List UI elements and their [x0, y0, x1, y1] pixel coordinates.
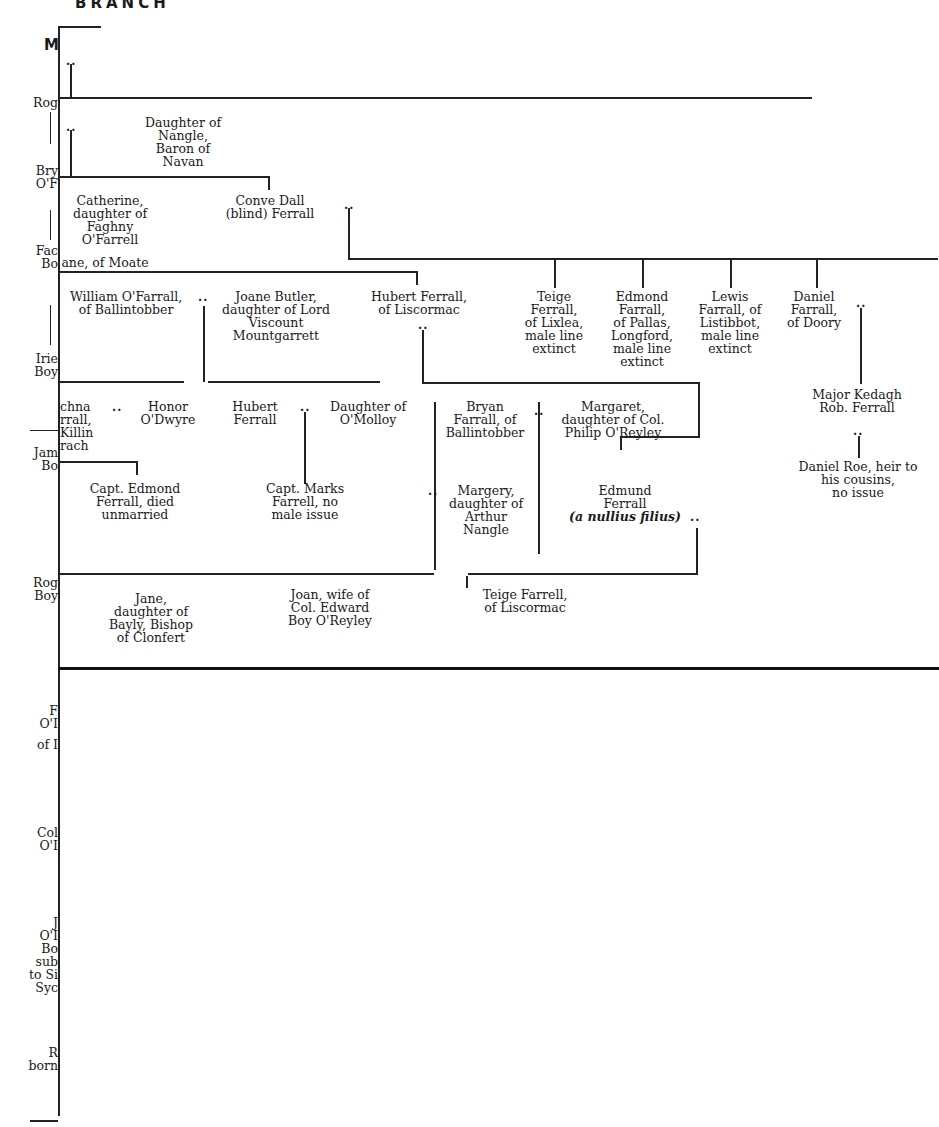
person-william-ofarrall: William O'Farrall,of Ballintobber — [56, 290, 196, 316]
generation-line — [58, 381, 184, 383]
person-honor-odwyre: HonorO'Dwyre — [128, 400, 208, 426]
margin-f: FO'Iof I — [37, 704, 58, 751]
descent-line — [642, 258, 644, 288]
generation-line — [58, 461, 138, 463]
person-daughter-of-omolloy: Daughter ofO'Molloy — [318, 400, 418, 426]
person-daniel-farrall-doory: DanielFarrall,of Doory — [774, 290, 854, 329]
person-capt-edmond: Capt. EdmondFerrall, diedunmarried — [80, 482, 190, 521]
person-joane-butler: Joane Butler,daughter of LordViscountMou… — [206, 290, 346, 342]
person-edmond-farrall-pallas: EdmondFarrall,of Pallas,Longford,male li… — [596, 290, 688, 368]
generation-line — [58, 176, 270, 178]
descent-line — [538, 402, 540, 554]
bottom-stub-line — [30, 1120, 58, 1122]
generation-line — [468, 573, 698, 575]
descent-line — [554, 258, 556, 288]
margin-jam: JamBo — [34, 446, 58, 472]
margin-rog-1: Rog — [33, 96, 58, 109]
person-teige-farrell-liscormac: Teige Farrell,of Liscormac — [470, 588, 580, 614]
descent-line — [70, 64, 72, 97]
margin-irie: IrieBoy — [34, 352, 58, 378]
descent-line — [348, 208, 350, 258]
margin-r: Rborn — [28, 1046, 58, 1072]
person-daughter-of-nangle: Daughter ofNangle,Baron ofNavan — [138, 116, 228, 168]
top-tick-line — [58, 26, 101, 28]
descent-line — [730, 258, 732, 288]
person-major-kedagh: Major KedaghRob. Ferrall — [802, 388, 912, 414]
person-hubert-ferrall-liscormac: Hubert Ferrall,of Liscormac — [358, 290, 480, 316]
descent-line — [698, 382, 700, 436]
descent-line — [136, 461, 138, 475]
descent-line — [203, 306, 205, 382]
person-bryan-farrall: BryanFarrall, ofBallintobber — [436, 400, 534, 439]
descent-line — [858, 436, 860, 458]
spine-line — [58, 26, 60, 1116]
generation-line — [208, 381, 380, 383]
descent-line — [860, 308, 862, 384]
descent-line — [696, 528, 698, 574]
margin-rog-2: RogBoy — [33, 576, 58, 602]
generation-line — [422, 382, 700, 384]
margin-stub — [50, 112, 51, 144]
margin-stub — [50, 305, 51, 345]
margin-j: JO'IBosubto SiSyc — [29, 916, 58, 994]
descent-line — [70, 130, 72, 176]
generation-line — [620, 436, 700, 438]
descent-line — [620, 436, 622, 450]
margin-stub — [50, 210, 51, 240]
descent-line — [268, 176, 270, 190]
person-catherine-tail: ane, of Moate — [40, 256, 170, 269]
person-edmund-ferrall: EdmundFerrall(a nullius filius) — [560, 484, 690, 523]
person-catherine: Catherine,daughter ofFaghnyO'Farrell — [60, 194, 160, 246]
person-teige-ferrall-lixlea: TeigeFerrall,of Lixlea,male lineextinct — [512, 290, 596, 355]
generation-line — [58, 97, 812, 99]
generation-line — [58, 573, 434, 575]
descent-line — [304, 412, 306, 484]
person-conve-dall: Conve Dall(blind) Ferrall — [210, 194, 330, 220]
descent-line — [816, 258, 818, 288]
person-cahna-fragment: chnarrall,Killinrach — [60, 400, 96, 452]
descent-line — [422, 330, 424, 382]
section-separator — [58, 667, 939, 670]
person-joan: Joan, wife ofCol. EdwardBoy O'Reyley — [270, 588, 390, 627]
descent-line — [416, 271, 418, 285]
generation-line — [58, 271, 418, 273]
person-capt-marks: Capt. MarksFarrell, nomale issue — [250, 482, 360, 521]
marriage-marker: .. — [690, 510, 700, 524]
branch-heading: BRANCH — [75, 0, 170, 12]
person-daniel-roe: Daniel Roe, heir tohis cousins,no issue — [776, 460, 939, 499]
marriage-marker: .. — [853, 424, 863, 438]
person-margery: Margery,daughter ofArthurNangle — [436, 484, 536, 536]
person-jane: Jane,daughter ofBayly, Bishopof Clonfert — [96, 592, 206, 644]
nullius-filius-note: (a nullius filius) — [560, 510, 690, 523]
margin-letter: M — [44, 36, 59, 54]
person-lewis-farrall: LewisFarrall, ofListibbot,male lineextin… — [684, 290, 776, 355]
person-margaret: Margaret,daughter of Col.Philip O'Reyley — [548, 400, 678, 439]
margin-col: ColO'I — [37, 826, 58, 852]
margin-bry: BryO'F — [36, 164, 58, 190]
person-hubert-ferrall: HubertFerrall — [220, 400, 290, 426]
margin-stub — [30, 430, 58, 431]
descent-line — [466, 576, 468, 588]
marriage-marker: .. — [112, 400, 122, 414]
